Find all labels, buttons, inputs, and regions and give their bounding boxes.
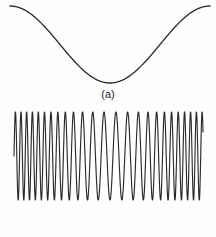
- panel-a-label: (a): [0, 88, 216, 100]
- figure-root: (a) (b): [0, 0, 216, 237]
- fm-carrier-plot: [0, 106, 216, 237]
- panel-modulating-signal: (a): [0, 0, 216, 106]
- panel-modulated-carrier: (b): [0, 106, 216, 237]
